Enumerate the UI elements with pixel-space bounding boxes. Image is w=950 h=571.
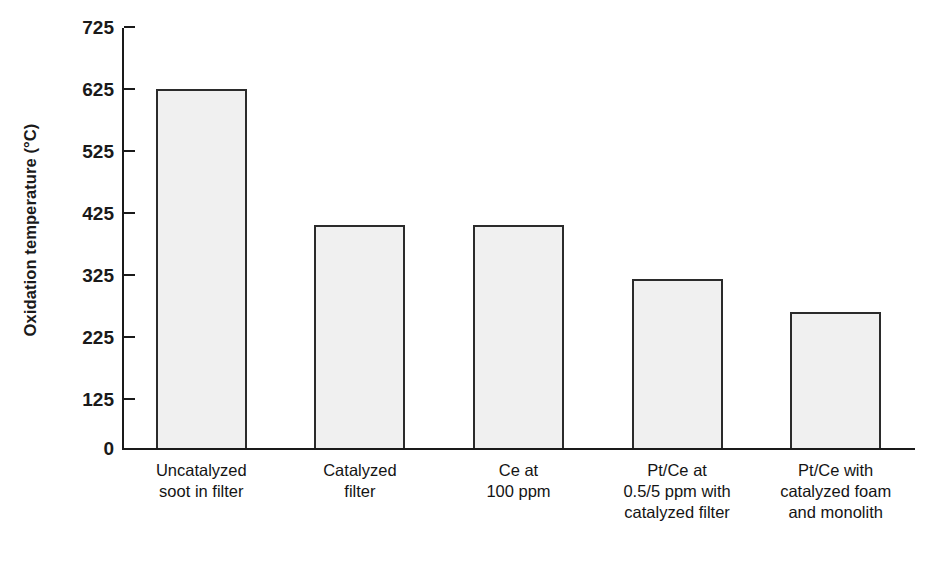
y-tick-mark (124, 212, 135, 214)
y-tick-label: 0 (103, 439, 114, 458)
y-axis-line (122, 28, 124, 450)
y-tick-label: 325 (82, 266, 114, 285)
y-tick-label: 625 (82, 80, 114, 99)
y-tick-label: 225 (82, 328, 114, 347)
y-tick-label: 425 (82, 204, 114, 223)
y-tick-mark (124, 150, 135, 152)
x-axis-line (122, 448, 915, 450)
y-tick-mark (124, 336, 135, 338)
bar (632, 279, 723, 448)
x-axis-category-label: Pt/Ce with catalyzed foam and monolith (756, 460, 915, 522)
plot-area: 0125225325425525625725 Uncatalyzed soot … (122, 28, 915, 450)
bar (156, 89, 247, 448)
y-axis-title: Oxidation temperature (°C) (10, 0, 50, 460)
bar (473, 225, 564, 448)
y-tick-mark (124, 274, 135, 276)
y-tick-label: 525 (82, 142, 114, 161)
x-axis-category-label: Ce at 100 ppm (439, 460, 598, 502)
y-tick-mark (124, 26, 135, 28)
x-axis-category-label: Pt/Ce at 0.5/5 ppm with catalyzed filter (598, 460, 757, 522)
y-tick-label: 125 (82, 390, 114, 409)
bar-chart-figure: Oxidation temperature (°C) 0125225325425… (0, 0, 950, 571)
x-axis-category-label: Uncatalyzed soot in filter (122, 460, 281, 502)
x-axis-category-label: Catalyzed filter (281, 460, 440, 502)
y-tick-label: 725 (82, 18, 114, 37)
bar (314, 225, 405, 448)
y-tick-mark (124, 398, 135, 400)
bar (790, 312, 881, 448)
y-tick-mark (124, 88, 135, 90)
